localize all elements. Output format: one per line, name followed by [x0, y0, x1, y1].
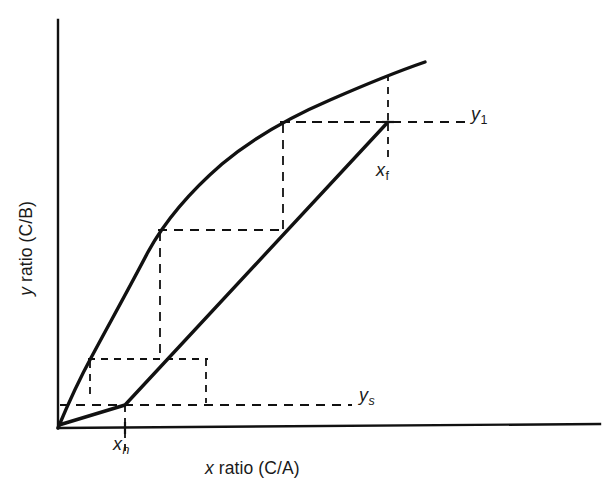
equilibrium-curve — [58, 62, 425, 428]
label-xn-symbol: x — [113, 434, 122, 454]
x-axis-label: x ratio (C/A) — [205, 458, 300, 479]
y-axis-label: y ratio (C/B) — [16, 179, 37, 319]
y-axis-label-text: ratio (C/B) — [16, 201, 36, 287]
operating-line — [59, 122, 388, 425]
label-y1: y1 — [471, 104, 487, 125]
label-xf-symbol: x — [376, 160, 385, 180]
tick-marks-group — [125, 122, 394, 434]
x-axis-label-symbol: x — [205, 458, 214, 478]
label-ys-subscript: s — [369, 394, 375, 408]
x-axis-line — [58, 424, 600, 428]
label-ys: ys — [359, 385, 374, 406]
y-axis-label-symbol: y — [16, 287, 36, 296]
label-xn: xn — [113, 434, 129, 455]
label-xf-subscript: f — [386, 169, 389, 183]
label-y1-subscript: 1 — [481, 113, 488, 127]
label-ys-symbol: y — [359, 385, 368, 405]
plot-canvas — [0, 0, 614, 498]
label-y1-symbol: y — [471, 104, 480, 124]
label-xn-subscript: n — [123, 443, 130, 457]
x-axis-label-text: ratio (C/A) — [214, 458, 300, 478]
axes-group — [58, 20, 600, 428]
construction-dashes-group — [60, 76, 466, 452]
figure-container: y ratio (C/B) x ratio (C/A) y1 ys xf xn — [0, 0, 614, 498]
label-xf: xf — [376, 160, 388, 181]
